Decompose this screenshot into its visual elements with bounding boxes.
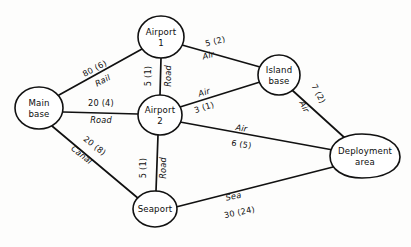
edge-line-airport2-island xyxy=(180,82,260,107)
edge-line-airport2-deployment xyxy=(180,122,333,150)
edge-mode-airport1-island: Air xyxy=(200,49,215,62)
edge-line-main-airport2 xyxy=(63,112,138,114)
node-label-main-base-line2: base xyxy=(28,109,49,119)
edge-cost-airport1-island: 5 (2) xyxy=(204,34,226,49)
edge-mode-main-airport2: Road xyxy=(90,115,112,125)
edge-cost-airport1-airport2: 5 (1) xyxy=(143,66,153,86)
edge-cost-airport2-deployment: 6 (5) xyxy=(231,138,253,151)
edge-mode-airport1-airport2: Road xyxy=(163,65,173,87)
node-label-deployment-area-line2: area xyxy=(355,157,375,167)
node-deployment-area[interactable] xyxy=(330,134,400,178)
node-label-airport-1-line1: Airport xyxy=(146,27,177,37)
edge-line-airport1-airport2 xyxy=(160,58,161,95)
edge-line-main-seaport xyxy=(52,126,139,199)
node-label-main-base-line1: Main xyxy=(28,98,49,108)
node-label-island-base-line2: base xyxy=(268,76,289,86)
edge-mode-airport2-seaport: Road xyxy=(158,157,168,179)
network-diagram: Main base Airport 1 Airport 2 Island bas… xyxy=(0,0,411,247)
node-airport-1[interactable] xyxy=(138,16,184,58)
edge-mode-island-deployment: Air xyxy=(297,98,312,114)
node-airport-2[interactable] xyxy=(138,95,182,135)
edge-mode-airport2-deployment: Air xyxy=(234,122,249,134)
edge-line-airport1-island xyxy=(182,45,260,67)
edge-cost-main-airport2: 20 (4) xyxy=(88,98,114,108)
edge-line-main-airport1 xyxy=(59,49,142,95)
node-label-island-base-line1: Island xyxy=(266,65,292,75)
node-label-deployment-area-line1: Deployment xyxy=(338,146,393,156)
node-main-base[interactable] xyxy=(15,87,63,129)
node-island-base[interactable] xyxy=(258,55,300,95)
edge-cost-island-deployment: 7 (2) xyxy=(309,82,327,105)
edge-cost-seaport-deployment: 30 (24) xyxy=(223,204,256,220)
edge-cost-airport2-seaport: 5 (1) xyxy=(138,158,148,178)
edge-mode-seaport-deployment: Sea xyxy=(225,190,243,203)
network-diagram-canvas: Main base Airport 1 Airport 2 Island bas… xyxy=(0,0,411,247)
node-label-airport-2-line2: 2 xyxy=(157,116,163,126)
edge-line-seaport-deployment xyxy=(176,166,337,207)
node-label-airport-2-line1: Airport xyxy=(145,105,176,115)
node-label-seaport: Seaport xyxy=(138,204,173,214)
node-label-airport-1-line2: 1 xyxy=(158,38,164,48)
